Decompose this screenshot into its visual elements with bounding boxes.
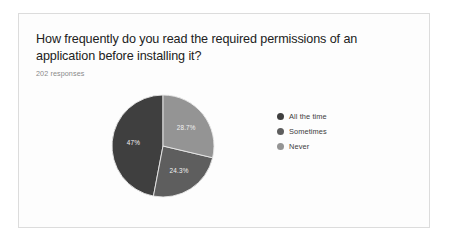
legend-swatch-icon <box>277 128 284 135</box>
pie-slice-value-label: 28.7% <box>177 124 196 131</box>
pie-chart-svg: 47%24.3%28.7% <box>111 94 215 198</box>
pie-slice-value-label: 24.3% <box>170 167 189 174</box>
pie-chart: 47%24.3%28.7% <box>111 94 215 198</box>
pie-chart-area: 47%24.3%28.7% All the time Sometimes Nev… <box>19 84 429 227</box>
page-title: How frequently do you read the required … <box>36 31 406 65</box>
legend-item-label: All the time <box>289 112 327 121</box>
legend-swatch-icon <box>277 143 284 150</box>
legend-item-label: Never <box>289 142 309 151</box>
legend-item-never[interactable]: Never <box>277 140 397 152</box>
response-count-label: 202 responses <box>36 69 406 79</box>
legend-item-all-the-time[interactable]: All the time <box>277 110 397 122</box>
pie-slice-value-label: 47% <box>127 139 141 146</box>
legend-item-sometimes[interactable]: Sometimes <box>277 125 397 137</box>
question-block: How frequently do you read the required … <box>36 31 406 79</box>
legend-swatch-icon <box>277 113 284 120</box>
legend-item-label: Sometimes <box>289 127 327 136</box>
chart-legend: All the time Sometimes Never <box>277 110 397 155</box>
chart-result-card: How frequently do you read the required … <box>18 13 430 228</box>
